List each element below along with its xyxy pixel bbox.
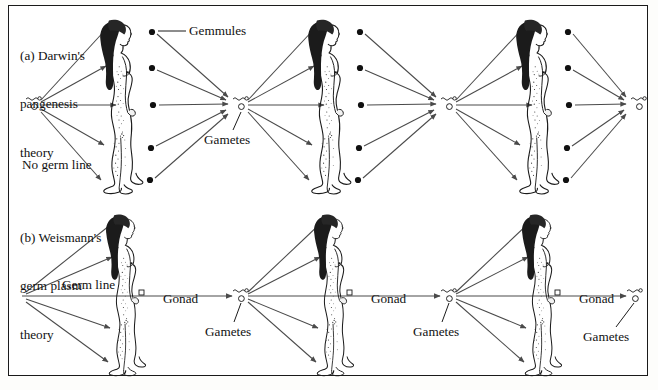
panel-a-title-line-2: pangenesis bbox=[20, 96, 85, 112]
gemmule-dots-a3 bbox=[563, 29, 572, 183]
gametes-label-a: Gametes bbox=[204, 132, 250, 148]
panel-a-title-line-1: (a) Darwin's bbox=[20, 48, 85, 64]
gametes-leader-b3 bbox=[616, 303, 634, 327]
gemmule-dots-a2 bbox=[355, 29, 364, 183]
gamete-symbol-a1 bbox=[233, 97, 248, 110]
figure-root: (a) Darwin's pangenesis theory Gemmules … bbox=[0, 0, 658, 390]
gamete-symbol-a2 bbox=[441, 97, 456, 110]
gametes-leader-b2 bbox=[442, 303, 449, 322]
gamete-symbol-b1 bbox=[233, 289, 248, 302]
gemmule-arrows-a3 bbox=[571, 34, 626, 178]
panel-b-title-line-3: theory bbox=[20, 327, 101, 343]
soma-arrows-b2 bbox=[248, 222, 322, 362]
panel-b-artwork bbox=[22, 215, 642, 376]
gametes-leader-b1 bbox=[234, 303, 241, 322]
panel-b-title-line-1: (b) Weismann's bbox=[20, 230, 101, 246]
gemmule-dots-a1 bbox=[147, 29, 156, 183]
gamete-symbol-a3 bbox=[631, 97, 646, 110]
gonad-mark-b1 bbox=[139, 290, 144, 295]
gametes-label-b1: Gametes bbox=[205, 324, 251, 340]
gametes-label-b3: Gametes bbox=[583, 329, 629, 345]
gonad-label-1: Gonad bbox=[163, 291, 198, 307]
germ-line-label: Germ line bbox=[62, 277, 115, 293]
gonad-label-2: Gonad bbox=[371, 291, 406, 307]
gonad-mark-b2 bbox=[347, 290, 352, 295]
gemmule-arrows-a2 bbox=[363, 34, 436, 178]
human-figure-a2 bbox=[308, 20, 351, 194]
gemmule-arrows-a1 bbox=[155, 34, 228, 178]
gonad-mark-b3 bbox=[555, 290, 560, 295]
gemmules-label: Gemmules bbox=[189, 23, 246, 39]
gamete-symbol-b3 bbox=[627, 289, 642, 302]
human-figure-a3 bbox=[516, 20, 559, 194]
gonad-label-3: Gonad bbox=[579, 291, 614, 307]
panel-a-artwork bbox=[26, 20, 646, 194]
human-figure-a1 bbox=[100, 20, 143, 194]
no-germ-line-label: No germ line bbox=[22, 157, 92, 173]
soma-arrows-b3 bbox=[456, 222, 530, 362]
gametes-label-b2: Gametes bbox=[413, 324, 459, 340]
gametes-leader-a bbox=[233, 112, 241, 130]
gamete-symbol-b2 bbox=[441, 289, 456, 302]
